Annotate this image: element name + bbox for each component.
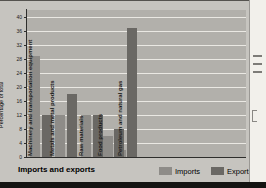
y-tick-label: 32 xyxy=(10,42,22,48)
y-tick-label: 4 xyxy=(10,140,22,146)
y-tick-label: 0 xyxy=(10,154,22,160)
y-tick-mark xyxy=(24,59,26,60)
y-tick-label: 36 xyxy=(10,28,22,34)
legend-swatch-imports xyxy=(159,167,172,175)
gridline xyxy=(27,17,246,18)
y-tick-label: 20 xyxy=(10,84,22,90)
y-tick-mark xyxy=(24,45,26,46)
scan-artifact-dash xyxy=(253,55,262,57)
y-tick-label: 16 xyxy=(10,98,22,104)
scan-artifact-bracket xyxy=(252,110,257,122)
y-tick-mark xyxy=(24,129,26,130)
category-label: Food products xyxy=(97,114,104,156)
bar-imports-3 xyxy=(103,136,113,157)
category-label: Machinery and transportation equipment xyxy=(27,40,34,156)
y-tick-mark xyxy=(24,115,26,116)
bar-exports-4 xyxy=(127,28,137,158)
scan-page-edge xyxy=(249,0,250,183)
bar-exports-1 xyxy=(67,94,77,157)
chart-title: Imports and exports xyxy=(18,165,95,174)
scan-right-strip xyxy=(250,0,266,183)
scan-artifact-dash xyxy=(253,63,262,65)
y-tick-mark xyxy=(24,143,26,144)
category-label: Raw materials xyxy=(78,116,85,156)
y-tick-label: 40 xyxy=(10,14,22,20)
y-tick-label: 12 xyxy=(10,112,22,118)
y-tick-label: 8 xyxy=(10,126,22,132)
y-tick-mark xyxy=(24,101,26,102)
y-tick-mark xyxy=(24,87,26,88)
scan-top-edge xyxy=(0,0,266,1)
y-tick-mark xyxy=(24,31,26,32)
y-tick-mark xyxy=(24,73,26,74)
y-tick-label: 28 xyxy=(10,56,22,62)
bar-imports-1 xyxy=(55,115,65,157)
x-axis-line xyxy=(26,157,246,158)
category-label: Petroleum and natural gas xyxy=(117,81,124,156)
y-tick-mark xyxy=(24,17,26,18)
category-label: Metals and metal products xyxy=(49,80,56,156)
legend-swatch-exports xyxy=(211,167,224,175)
chart-figure: Percentage of total 0481216202428323640 … xyxy=(0,0,266,188)
y-axis-title: Percentage of total xyxy=(0,82,4,128)
legend: Imports Exports xyxy=(159,166,263,176)
scan-artifact-dash xyxy=(253,71,262,73)
scan-bottom-edge xyxy=(0,182,266,188)
y-tick-label: 24 xyxy=(10,70,22,76)
legend-label-imports: Imports xyxy=(175,167,200,176)
